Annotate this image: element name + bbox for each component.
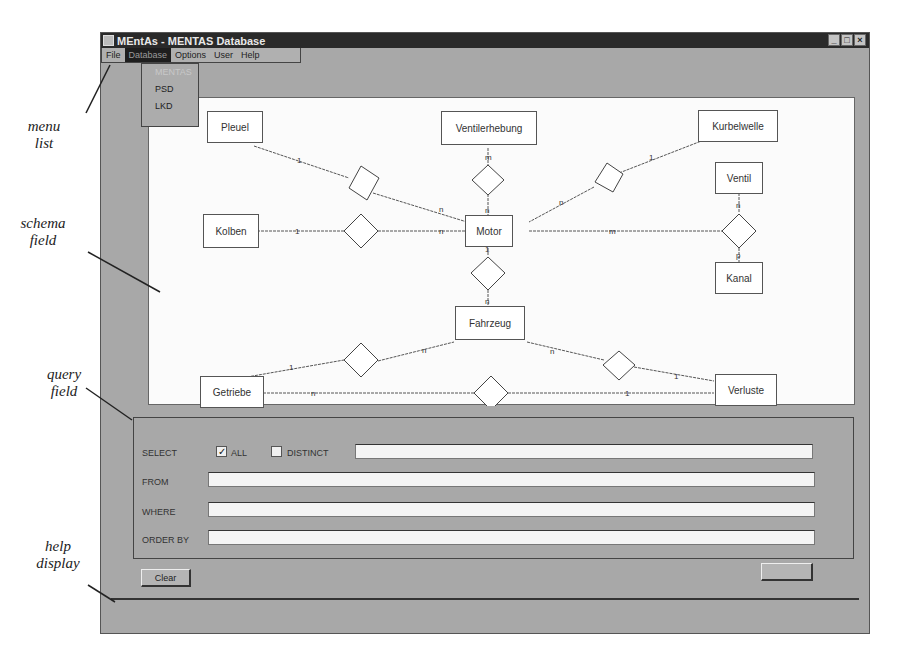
dropdown-item-psd[interactable]: PSD [142,81,198,98]
entity-motor[interactable]: Motor [465,215,513,247]
svg-text:n: n [422,346,426,355]
callout-schema-field: schema field [3,215,83,249]
where-input[interactable] [208,502,815,517]
all-label: ALL [231,448,247,458]
relationship-diamond [474,376,508,406]
svg-text:1: 1 [674,372,679,381]
dropdown-item-mentas[interactable]: MENTAS [142,64,198,81]
app-window: MEntAs - MENTAS Database _ □ × File Data… [100,32,870,634]
title-bar[interactable]: MEntAs - MENTAS Database _ □ × [101,33,869,48]
svg-text:m: m [609,227,616,236]
clear-button[interactable]: Clear [141,569,191,587]
database-dropdown-menu: MENTAS PSD LKD [141,63,199,127]
schema-field[interactable]: 1 n m n 1 n 1 n m n p 1 n 1 n n 1 n 1 Pl [148,97,855,405]
minimize-button[interactable]: _ [828,34,840,46]
callout-menu-list: menu list [4,118,84,152]
callout-text: field [24,383,104,400]
all-checkbox[interactable]: ✓ [216,446,227,457]
entity-kurbelwelle[interactable]: Kurbelwelle [698,110,778,142]
callout-query-field: query field [24,366,104,400]
dropdown-item-lkd[interactable]: LKD [142,98,198,115]
relationship-diamond [595,163,623,192]
entity-kanal[interactable]: Kanal [715,262,763,294]
from-input[interactable] [208,472,815,487]
menu-bar: File Database Options User Help [101,48,301,63]
order-by-input[interactable] [208,530,815,545]
maximize-button[interactable]: □ [841,34,853,46]
svg-text:n: n [736,201,740,210]
svg-text:1: 1 [295,227,300,236]
callout-text: schema [3,215,83,232]
menu-database[interactable]: Database [125,48,172,62]
relationship-diamond [603,351,635,380]
menu-file[interactable]: File [102,48,125,62]
relationship-diamond [471,257,505,290]
select-label: SELECT [142,448,177,458]
relationship-diamond [344,343,378,377]
where-label: WHERE [142,507,176,517]
callout-text: field [3,232,83,249]
callout-text: query [24,366,104,383]
svg-text:p: p [736,251,741,260]
distinct-label: DISTINCT [287,448,329,458]
close-button[interactable]: × [854,34,866,46]
callout-text: menu [4,118,84,135]
menu-user[interactable]: User [210,48,237,62]
relationship-diamond [722,214,756,248]
order-by-label: ORDER BY [142,535,189,545]
app-icon[interactable] [103,35,114,46]
entity-verluste[interactable]: Verluste [715,374,777,406]
svg-text:n: n [439,227,443,236]
select-input[interactable] [355,444,813,459]
callout-text: help [18,538,98,555]
svg-text:m: m [485,153,492,162]
svg-text:n: n [439,205,443,214]
relationship-diamond [472,165,504,195]
svg-text:1: 1 [649,153,654,162]
entity-ventilerhebung[interactable]: Ventilerhebung [441,111,537,145]
from-label: FROM [142,477,169,487]
query-field: SELECT ✓ ALL DISTINCT FROM WHERE ORDER B… [133,417,854,559]
svg-text:1: 1 [289,363,294,372]
relationship-diamond [349,166,379,200]
callout-text: display [18,555,98,572]
window-controls: _ □ × [828,34,866,46]
distinct-checkbox[interactable] [271,446,282,457]
svg-text:1: 1 [297,156,302,165]
execute-button[interactable] [761,563,813,581]
callout-text: list [4,135,84,152]
svg-text:n: n [311,389,315,398]
svg-text:n: n [559,198,563,207]
svg-text:1: 1 [625,389,630,398]
window-title: MEntAs - MENTAS Database [117,35,265,47]
svg-text:n: n [485,297,489,306]
entity-kolben[interactable]: Kolben [203,214,259,248]
callout-help-display: help display [18,538,98,572]
relationship-diamond [344,214,378,248]
entity-pleuel[interactable]: Pleuel [207,111,263,143]
svg-text:n: n [485,206,489,215]
entity-ventil[interactable]: Ventil [715,162,763,194]
entity-getriebe[interactable]: Getriebe [200,376,264,408]
menu-help[interactable]: Help [237,48,264,62]
help-display [111,598,859,624]
svg-text:n: n [550,347,554,356]
menu-options[interactable]: Options [171,48,210,62]
entity-fahrzeug[interactable]: Fahrzeug [455,306,525,340]
